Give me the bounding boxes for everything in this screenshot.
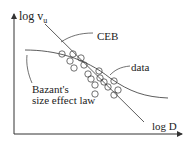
- data-leader: [110, 66, 130, 75]
- ceb-label: CEB: [97, 30, 118, 42]
- data-label: data: [131, 61, 149, 73]
- size-effect-diagram: log vu CEB data Bazant's size effect law…: [0, 0, 189, 147]
- ceb-line: [45, 24, 144, 122]
- ceb-leader: [61, 33, 93, 42]
- bazant-leader: [27, 55, 32, 83]
- y-axis-label: log vu: [19, 9, 47, 25]
- bazant-label-line2: size effect law: [32, 94, 95, 106]
- x-axis-label: log D: [152, 120, 177, 132]
